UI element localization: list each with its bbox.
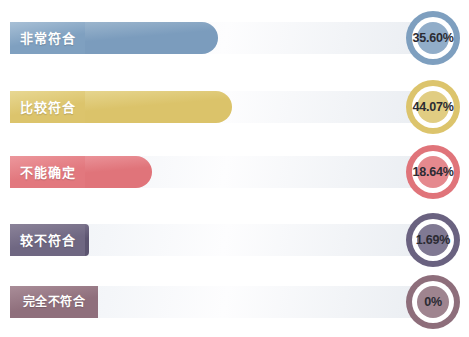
category-label-plate: 不能确定 [10, 156, 85, 188]
category-label-plate: 比较符合 [10, 91, 85, 123]
chart-row: 非常符合35.60% [0, 10, 469, 66]
bar-fill [85, 224, 89, 256]
percentage-ring: 35.60% [406, 11, 460, 65]
chart-row: 完全不符合0% [0, 274, 469, 330]
chart-row: 不能确定18.64% [0, 144, 469, 200]
chart-row: 较不符合1.69% [0, 212, 469, 268]
percentage-ring: 0% [406, 275, 460, 329]
percentage-ring: 1.69% [406, 213, 460, 267]
bar-fill [85, 156, 152, 188]
category-label-text: 比较符合 [20, 101, 76, 114]
category-label-plate: 非常符合 [10, 22, 85, 54]
category-label-plate: 完全不符合 [10, 286, 98, 318]
percentage-value: 44.07% [406, 80, 460, 134]
percentage-ring: 18.64% [406, 145, 460, 199]
percentage-value: 1.69% [406, 213, 460, 267]
horizontal-bar-chart: 非常符合35.60%比较符合44.07%不能确定18.64%较不符合1.69%完… [0, 0, 469, 337]
category-label-text: 非常符合 [20, 32, 76, 45]
category-label-text: 不能确定 [20, 166, 76, 179]
chart-row: 比较符合44.07% [0, 79, 469, 135]
category-label-text: 较不符合 [20, 234, 76, 247]
bar-fill [85, 91, 232, 123]
percentage-value: 0% [406, 275, 460, 329]
category-label-plate: 较不符合 [10, 224, 85, 256]
percentage-ring: 44.07% [406, 80, 460, 134]
percentage-value: 18.64% [406, 145, 460, 199]
bar-fill [85, 22, 218, 54]
percentage-value: 35.60% [406, 11, 460, 65]
category-label-text: 完全不符合 [23, 296, 86, 308]
